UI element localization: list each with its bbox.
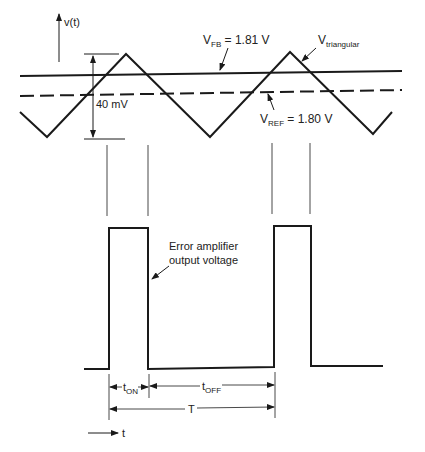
svg-text:Error amplifier: Error amplifier xyxy=(169,240,238,252)
pwm-timing-diagram: v(t) 40 mV VFB = 1.81 V Vtriangular VREF… xyxy=(0,0,425,452)
period-label: T xyxy=(188,403,195,415)
ripple-dimension: 40 mV xyxy=(84,54,128,139)
svg-text:VREF = 1.80 V: VREF = 1.80 V xyxy=(260,112,332,128)
vref-line xyxy=(20,90,402,96)
projection-lines xyxy=(107,143,310,216)
ripple-label: 40 mV xyxy=(96,98,128,110)
toff-label: tOFF xyxy=(202,380,221,395)
svg-text:Vtriangular: Vtriangular xyxy=(318,33,360,49)
y-axis: v(t) xyxy=(59,14,80,62)
vtri-label: Vtriangular xyxy=(302,33,360,61)
vfb-line xyxy=(20,71,402,76)
svg-text:VFB = 1.81 V: VFB = 1.81 V xyxy=(203,33,270,49)
triangular-wave xyxy=(20,52,392,137)
error-amp-label: Error amplifier output voltage xyxy=(152,240,238,279)
vref-label: VREF = 1.80 V xyxy=(260,94,332,128)
y-axis-label: v(t) xyxy=(64,16,80,28)
x-axis: t xyxy=(88,427,125,439)
x-axis-label: t xyxy=(122,427,125,439)
ton-label: tON xyxy=(123,381,138,396)
svg-text:output voltage: output voltage xyxy=(169,254,238,266)
vfb-label: VFB = 1.81 V xyxy=(203,33,270,70)
